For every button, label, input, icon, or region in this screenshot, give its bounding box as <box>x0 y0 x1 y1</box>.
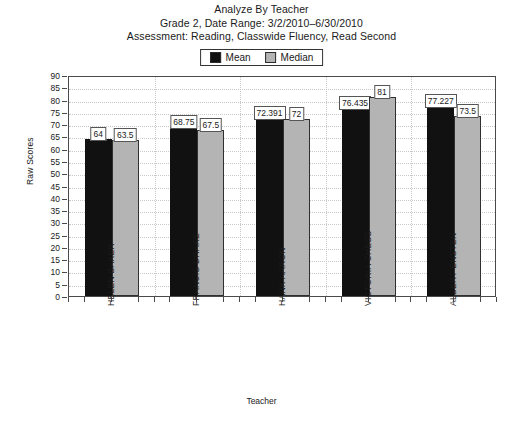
x-axis-tick-mark <box>309 297 310 302</box>
x-axis-tick-mark <box>169 297 170 302</box>
bar-median-4[interactable] <box>454 116 481 296</box>
y-axis-tick-label: 30 <box>51 219 60 228</box>
y-axis-tick-mark <box>62 187 67 188</box>
y-axis-tick-mark <box>62 76 67 77</box>
y-axis-tick-mark <box>62 297 67 298</box>
y-axis-tick-label: 45 <box>51 182 60 191</box>
x-axis-tick-mark <box>138 297 139 302</box>
legend-label-median: Median <box>281 52 314 63</box>
x-axis-tick-mark <box>196 297 197 302</box>
y-axis-tick-label: 60 <box>51 145 60 154</box>
x-axis-tick-mark <box>239 297 240 302</box>
x-axis-tick-mark <box>282 297 283 302</box>
data-label-mean-4: 77.227 <box>425 94 457 108</box>
chart-title-line-3: Assessment: Reading, Classwide Fluency, … <box>0 30 523 44</box>
y-axis-tick-label: 40 <box>51 194 60 203</box>
x-axis-tick-mark <box>111 297 112 302</box>
chart-legend: Mean Median <box>200 49 324 66</box>
data-label-median-4: 73.5 <box>456 104 479 118</box>
y-axis-tick-label: 15 <box>51 256 60 265</box>
data-label-median-2: 72 <box>289 107 304 121</box>
bar-median-1[interactable] <box>197 130 224 296</box>
y-axis-tick-label: 55 <box>51 157 60 166</box>
y-axis-tick-mark <box>62 236 67 237</box>
legend-swatch-median-icon <box>265 52 276 63</box>
y-axis-tick-mark <box>62 113 67 114</box>
legend-entry-median: Median <box>265 52 314 63</box>
x-axis-tick-mark <box>453 297 454 302</box>
x-axis-tick-mark <box>496 297 497 302</box>
y-axis-tick-label: 5 <box>55 280 60 289</box>
legend-swatch-mean-icon <box>210 52 221 63</box>
y-gridline <box>69 89 495 90</box>
data-label-mean-3: 76.435 <box>339 96 371 110</box>
y-axis-tick-label: 35 <box>51 207 60 216</box>
data-label-mean-2: 72.391 <box>254 106 286 120</box>
y-axis-tick-label: 90 <box>51 72 60 81</box>
y-axis-tick-label: 0 <box>55 293 60 302</box>
y-axis-tick-mark <box>62 248 67 249</box>
x-axis-tick-mark <box>480 297 481 302</box>
y-axis-tick-mark <box>62 260 67 261</box>
x-axis-category-label: FRANCIS DRAKE <box>192 233 201 306</box>
data-label-median-0: 63.5 <box>114 128 137 142</box>
x-axis-tick-mark <box>223 297 224 302</box>
y-axis-tick-label: 80 <box>51 96 60 105</box>
data-label-median-3: 81 <box>374 85 389 99</box>
x-axis-tick-mark <box>368 297 369 302</box>
x-axis-tick-mark <box>395 297 396 302</box>
legend-entry-mean: Mean <box>210 52 251 63</box>
y-axis-tick-mark <box>62 211 67 212</box>
x-axis-tick-mark <box>410 297 411 302</box>
chart-title-line-1: Analyze By Teacher <box>0 3 523 17</box>
data-label-median-1: 67.5 <box>200 118 223 132</box>
x-gridline <box>155 77 156 296</box>
y-axis-tick-mark <box>62 285 67 286</box>
data-label-mean-0: 64 <box>91 127 106 141</box>
legend-label-mean: Mean <box>226 52 251 63</box>
y-axis-title: Raw Scores <box>25 137 35 185</box>
chart-title-block: Analyze By Teacher Grade 2, Date Range: … <box>0 3 523 44</box>
chart-title-line-2: Grade 2, Date Range: 3/2/2010–6/30/2010 <box>0 17 523 31</box>
x-axis-title: Teacher <box>0 396 523 406</box>
y-axis-tick-label: 75 <box>51 108 60 117</box>
x-axis-tick-mark <box>341 297 342 302</box>
x-axis-category-label: ALBERT ENSTEN <box>449 233 458 307</box>
y-axis-tick-label: 50 <box>51 170 60 179</box>
y-axis-tick-mark <box>62 150 67 151</box>
y-axis-tick-mark <box>62 137 67 138</box>
x-gridline <box>326 77 327 296</box>
y-axis-tick-label: 10 <box>51 268 60 277</box>
x-axis-category-label: VICTORIA CHESS <box>364 231 373 306</box>
y-axis-tick-mark <box>62 223 67 224</box>
y-axis-tick-label: 85 <box>51 84 60 93</box>
x-axis-tick-mark <box>255 297 256 302</box>
y-axis-tick-mark <box>62 174 67 175</box>
y-axis-tick-label: 20 <box>51 243 60 252</box>
x-axis-tick-mark <box>68 297 69 302</box>
y-axis-tick-mark <box>62 199 67 200</box>
y-axis-tick-label: 25 <box>51 231 60 240</box>
x-gridline <box>411 77 412 296</box>
y-axis-tick-mark <box>62 125 67 126</box>
y-axis-tick-mark <box>62 162 67 163</box>
y-axis-tick-mark <box>62 101 67 102</box>
x-gridline <box>240 77 241 296</box>
data-label-mean-1: 68.75 <box>170 115 197 129</box>
y-axis-tick-mark <box>62 88 67 89</box>
y-axis-tick-mark <box>62 272 67 273</box>
y-axis-tick-labels: 051015202530354045505560657075808590 <box>36 76 60 297</box>
y-axis-tick-label: 70 <box>51 121 60 130</box>
y-axis-tick-label: 65 <box>51 133 60 142</box>
x-axis-tick-mark <box>426 297 427 302</box>
x-axis-tick-mark <box>154 297 155 302</box>
x-axis-tick-mark <box>84 297 85 302</box>
x-axis-tick-mark <box>325 297 326 302</box>
bar-median-2[interactable] <box>283 119 310 296</box>
